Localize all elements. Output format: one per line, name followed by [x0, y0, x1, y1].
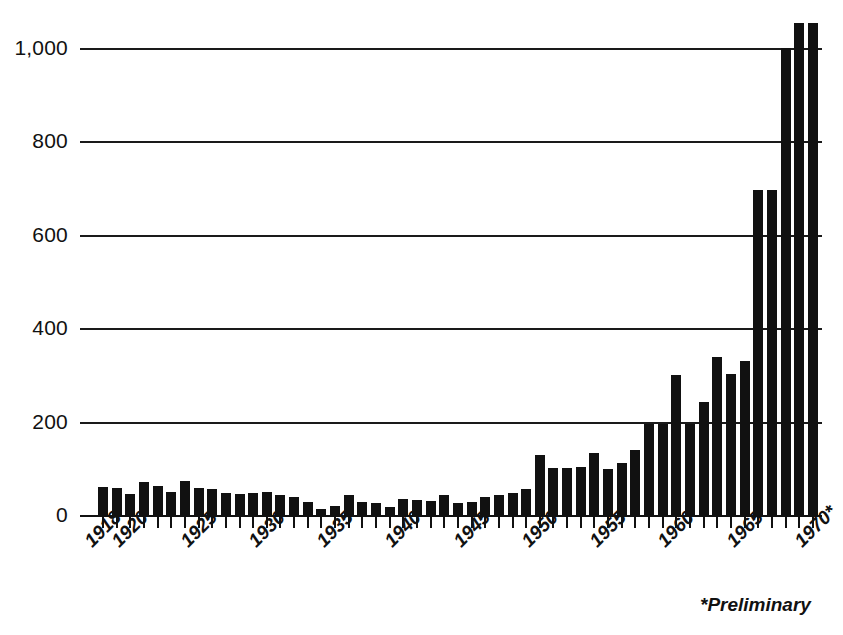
x-axis-tick: [225, 517, 227, 528]
bar: [235, 494, 245, 515]
x-axis-tick: [716, 517, 718, 528]
bar: [248, 493, 258, 515]
bar: [508, 493, 518, 515]
bar: [576, 467, 586, 515]
bar: [685, 424, 695, 515]
bar: [494, 495, 504, 515]
plot-area: [0, 0, 843, 515]
bar: [521, 489, 531, 515]
bar: [221, 493, 231, 515]
x-axis-tick: [293, 517, 295, 528]
bar: [535, 455, 545, 515]
bar: [357, 502, 367, 515]
bar: [658, 424, 668, 515]
bar: [753, 190, 763, 515]
bar: [426, 501, 436, 515]
footnote-preliminary: *Preliminary: [700, 594, 811, 616]
axis-baseline: [80, 515, 822, 517]
x-axis-tick: [785, 517, 787, 528]
bar: [439, 495, 449, 515]
x-axis-tick: [498, 517, 500, 528]
bar: [589, 453, 599, 515]
bar: [671, 375, 681, 515]
x-axis-tick: [375, 517, 377, 528]
x-axis-tick: [648, 517, 650, 528]
bar: [794, 23, 804, 515]
x-axis-tick: [307, 517, 309, 528]
x-axis-tick: [443, 517, 445, 528]
bar: [712, 357, 722, 515]
bar: [767, 190, 777, 515]
bar: [371, 503, 381, 515]
bar: [630, 450, 640, 515]
x-axis-tick: [771, 517, 773, 528]
x-axis-tick: [361, 517, 363, 528]
bar: [180, 481, 190, 515]
bar: [726, 374, 736, 515]
x-axis-tick: [170, 517, 172, 528]
bar: [303, 502, 313, 515]
x-axis-tick: [566, 517, 568, 528]
bar: [166, 492, 176, 515]
bar: [781, 48, 791, 515]
bar: [153, 486, 163, 515]
bar: [453, 503, 463, 515]
bar: [699, 402, 709, 515]
x-axis-tick: [634, 517, 636, 528]
x-axis-tick: [239, 517, 241, 528]
bar: [617, 463, 627, 515]
x-axis-tick: [157, 517, 159, 528]
x-axis-tick: [512, 517, 514, 528]
x-axis-tick: [430, 517, 432, 528]
bar: [289, 497, 299, 515]
bar: [808, 23, 818, 515]
bar: [644, 424, 654, 515]
bar: [548, 468, 558, 515]
bar: [740, 361, 750, 515]
x-axis-tick: [580, 517, 582, 528]
x-axis-tick: [703, 517, 705, 528]
bar: [385, 507, 395, 515]
bar: [316, 509, 326, 515]
bar-chart: 02004006008001,000 191819201925193019351…: [0, 0, 843, 635]
bar: [562, 468, 572, 515]
